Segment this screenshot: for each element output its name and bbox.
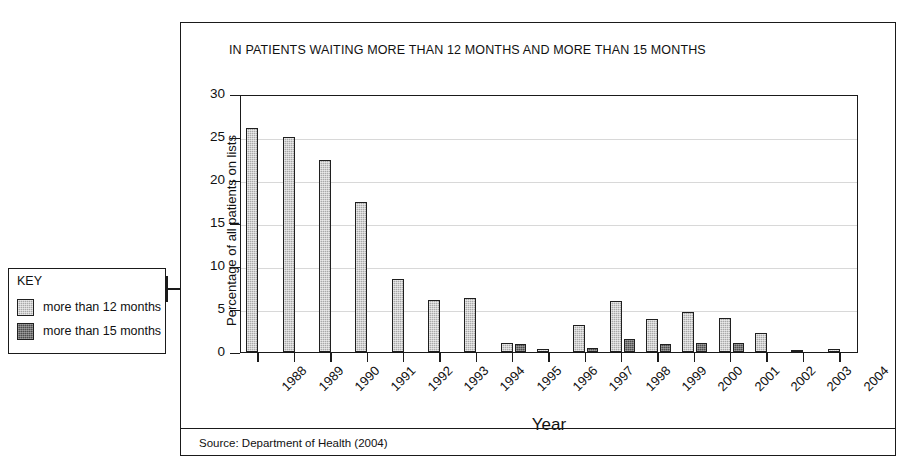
bars-layer [241,96,857,352]
x-axis-title: Year [240,415,858,435]
x-axis-tick-label: 1988 [279,363,310,394]
x-axis-tick [621,353,622,362]
bar-more-than-15-months [696,343,707,352]
y-axis-title: Percentage of all patients on lists [224,101,239,361]
bar-more-than-12-months [573,325,585,352]
legend-heading: KEY [17,274,42,288]
bar-more-than-12-months [319,160,331,352]
x-axis-tick [330,353,331,362]
bar-more-than-15-months [733,343,744,352]
x-axis-tick [512,353,513,362]
key-connector-line [166,288,181,290]
x-axis-tick-label: 1997 [606,363,637,394]
x-axis-tick-label: 2002 [788,363,819,394]
y-axis-tick [230,138,240,139]
y-axis-tick-label: 20 [165,172,225,187]
x-axis-labels: 1988198919901991199219931994199519961997… [240,363,858,419]
bar-more-than-12-months [392,279,404,352]
legend-item-more-than-15-months: more than 15 months [17,321,161,341]
x-axis-tick [803,353,804,362]
x-axis-tick-label: 1996 [569,363,600,394]
source-note: Source: Department of Health (2004) [199,437,388,449]
y-axis-tick [230,267,240,268]
x-axis-tick [585,353,586,362]
plot-area [240,95,858,353]
x-axis-tick-label: 1993 [460,363,491,394]
bar-more-than-12-months [682,312,694,352]
bar-more-than-12-months [464,298,476,352]
x-axis-tick [694,353,695,362]
x-axis-tick [730,353,731,362]
bar-more-than-12-months [755,333,767,352]
x-axis-tick [839,353,840,362]
y-axis-tick-label: 15 [165,215,225,230]
bar-more-than-15-months [587,348,598,352]
legend-label-12-months: more than 12 months [43,300,161,314]
y-axis-tick [230,181,240,182]
bar-more-than-12-months [246,128,258,352]
bar-more-than-12-months [428,300,440,352]
y-axis-tick-label: 25 [165,129,225,144]
x-axis-tick-label: 2001 [751,363,782,394]
legend-item-more-than-12-months: more than 12 months [17,297,161,317]
y-axis-tick-label: 30 [165,86,225,101]
x-axis-tick [403,353,404,362]
bar-more-than-12-months [646,319,658,352]
bar-more-than-12-months [719,318,731,352]
x-axis-tick-label: 2004 [860,363,891,394]
bar-more-than-12-months [828,349,840,352]
bar-more-than-12-months [283,137,295,352]
legend-swatch-12-months-icon [17,299,34,316]
y-axis-tick [230,353,240,354]
x-axis-tick-label: 1989 [315,363,346,394]
bar-more-than-12-months [791,350,803,352]
bar-more-than-12-months [537,349,549,352]
x-axis-tick [766,353,767,362]
x-axis-tick-label: 1995 [533,363,564,394]
x-axis-tick-label: 1991 [388,363,419,394]
bar-more-than-15-months [624,339,635,352]
figure-frame: IN PATIENTS WAITING MORE THAN 12 MONTHS … [180,22,896,456]
x-axis-tick-label: 1992 [424,363,455,394]
x-axis-tick-label: 1999 [679,363,710,394]
x-axis-tick [439,353,440,362]
bar-more-than-12-months [610,301,622,352]
legend-label-15-months: more than 15 months [43,324,161,338]
x-axis-tick [548,353,549,362]
x-axis-tick-label: 1990 [351,363,382,394]
x-axis-tick [657,353,658,362]
bar-more-than-15-months [660,344,671,352]
bar-more-than-12-months [355,202,367,353]
y-axis-tick [230,95,240,96]
y-axis-tick-label: 0 [165,344,225,359]
source-divider [181,428,895,430]
y-axis-tick [230,224,240,225]
x-axis-tick [294,353,295,362]
x-axis-tick [476,353,477,362]
bar-more-than-15-months [515,344,526,352]
bar-more-than-12-months [501,343,513,352]
x-axis-tick-label: 1994 [497,363,528,394]
chart-title: IN PATIENTS WAITING MORE THAN 12 MONTHS … [229,43,706,57]
x-axis-tick-label: 2003 [824,363,855,394]
legend-key-box: KEY more than 12 months more than 15 mon… [8,268,166,354]
y-axis-tick [230,310,240,311]
x-axis-tick [257,353,258,362]
x-axis-tick-label: 2000 [715,363,746,394]
x-axis-tick [367,353,368,362]
y-axis-tick-label: 5 [165,301,225,316]
x-axis-tick-label: 1998 [642,363,673,394]
x-axis-ticks [240,353,858,363]
legend-swatch-15-months-icon [17,323,34,340]
y-axis-tick-label: 10 [165,258,225,273]
